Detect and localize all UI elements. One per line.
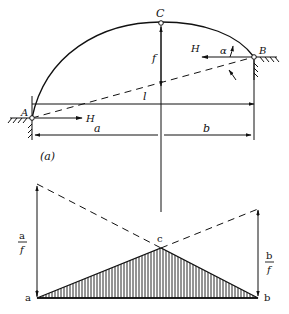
influence-area (37, 248, 258, 298)
svg-text:b: b (266, 250, 272, 261)
fraction-a-over-f: a f (18, 230, 27, 255)
label-a: a (94, 122, 101, 135)
chord-line (32, 57, 254, 118)
label-B: B (258, 45, 266, 56)
figure-caption: (a) (40, 150, 55, 163)
label-A: A (20, 107, 28, 118)
support-A (8, 118, 32, 140)
label-alpha: α (220, 45, 227, 56)
label-l: l (143, 90, 147, 103)
svg-text:a: a (19, 230, 25, 241)
label-b-point: b (264, 292, 270, 303)
support-B (254, 57, 279, 80)
influence-line (37, 184, 258, 298)
angle-arc (230, 46, 233, 57)
label-f: f (151, 52, 158, 65)
three-hinged-arch-diagram: C A B f l a b H H α (a) c a b a f b f (0, 0, 289, 314)
svg-text:f: f (266, 264, 273, 275)
label-H-left: H (85, 113, 95, 124)
dashed-right (161, 209, 258, 248)
label-a-point: a (25, 292, 31, 303)
label-c: c (157, 233, 163, 244)
hinge-A (30, 116, 35, 121)
label-b: b (203, 122, 210, 135)
dashed-left (37, 184, 161, 248)
label-H-right: H (190, 43, 200, 54)
svg-text:f: f (19, 244, 26, 255)
fraction-b-over-f: b f (265, 250, 274, 275)
hinge-B (252, 55, 257, 60)
hinge-C (159, 21, 164, 26)
arch-structure (8, 21, 279, 212)
label-C: C (156, 7, 165, 20)
